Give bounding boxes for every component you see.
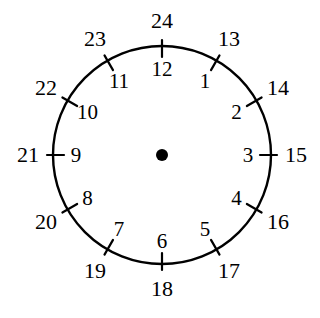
outer-hour-label-15: 15 <box>285 144 307 166</box>
outer-hour-label-16: 16 <box>267 211 289 233</box>
inner-hour-label-12: 12 <box>152 59 173 80</box>
inner-hour-label-1: 1 <box>200 70 211 91</box>
clock-dial-svg <box>0 0 320 318</box>
outer-hour-label-13: 13 <box>218 28 240 50</box>
outer-hour-label-14: 14 <box>267 77 289 99</box>
outer-hour-label-21: 21 <box>17 144 39 166</box>
outer-hour-label-17: 17 <box>218 260 240 282</box>
outer-hour-label-19: 19 <box>84 260 106 282</box>
outer-hour-label-23: 23 <box>84 28 106 50</box>
inner-hour-label-8: 8 <box>82 188 93 209</box>
inner-hour-label-9: 9 <box>71 145 82 166</box>
inner-hour-label-5: 5 <box>200 219 211 240</box>
inner-hour-label-10: 10 <box>77 102 98 123</box>
inner-hour-label-4: 4 <box>231 188 242 209</box>
clock-face-diagram: 123456789101112 131415161718192021222324 <box>0 0 320 318</box>
inner-hour-label-7: 7 <box>114 219 125 240</box>
outer-hour-label-20: 20 <box>35 211 57 233</box>
inner-hour-label-2: 2 <box>231 102 242 123</box>
inner-hour-label-3: 3 <box>243 145 254 166</box>
inner-hour-label-6: 6 <box>157 231 168 252</box>
outer-hour-label-24: 24 <box>151 10 173 32</box>
outer-hour-label-18: 18 <box>151 278 173 300</box>
outer-hour-label-22: 22 <box>35 77 57 99</box>
clock-center-dot <box>156 149 168 161</box>
inner-hour-label-11: 11 <box>109 70 129 91</box>
